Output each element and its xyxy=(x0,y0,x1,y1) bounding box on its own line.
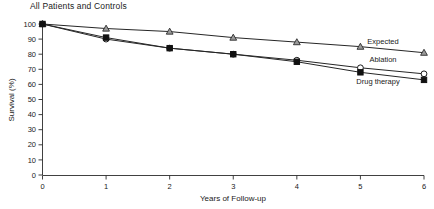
x-tick-label: 1 xyxy=(104,182,108,191)
series-label-drug-therapy: Drug therapy xyxy=(356,77,400,86)
series-ablation xyxy=(40,21,427,77)
series-label-expected: Expected xyxy=(367,37,398,46)
y-tick-label: 40 xyxy=(28,110,36,119)
x-axis-title: Years of Follow-up xyxy=(200,194,267,203)
y-tick-label: 20 xyxy=(28,140,36,149)
data-point-marker xyxy=(167,45,172,50)
x-tick-label: 2 xyxy=(168,182,172,191)
y-tick-label: 30 xyxy=(28,125,36,134)
y-tick-label: 70 xyxy=(28,65,36,74)
y-tick-label: 60 xyxy=(28,80,36,89)
y-tick-label: 0 xyxy=(32,171,36,180)
x-tick-label: 4 xyxy=(295,182,299,191)
data-point-marker xyxy=(421,77,426,82)
y-axis-title: Survival (%) xyxy=(7,78,16,121)
data-point-marker xyxy=(358,70,363,75)
series-layer xyxy=(39,21,427,83)
y-tick-label: 80 xyxy=(28,50,36,59)
series-label-ablation: Ablation xyxy=(369,55,396,64)
data-point-marker xyxy=(103,35,108,40)
survival-chart-figure: All Patients and Controls 01020304050607… xyxy=(0,0,434,209)
x-tick-label: 0 xyxy=(40,182,44,191)
chart-plot-area: 0102030405060708090100 Survival (%) 0123… xyxy=(0,0,434,209)
y-tick-label: 100 xyxy=(23,20,36,29)
y-axis: 0102030405060708090100 Survival (%) xyxy=(7,20,43,180)
data-point-marker xyxy=(294,59,299,64)
y-tick-label: 10 xyxy=(28,156,36,165)
x-tick-label: 5 xyxy=(358,182,362,191)
y-tick-group: 0102030405060708090100 xyxy=(23,20,42,180)
data-point-marker xyxy=(40,21,45,26)
x-tick-label: 3 xyxy=(231,182,235,191)
x-axis: 0123456 Years of Follow-up xyxy=(40,176,426,204)
data-point-marker xyxy=(231,52,236,57)
y-tick-label: 50 xyxy=(28,95,36,104)
x-tick-label: 6 xyxy=(422,182,426,191)
y-tick-label: 90 xyxy=(28,35,36,44)
series-line xyxy=(43,24,425,74)
data-point-marker xyxy=(421,71,427,77)
series-drug-therapy xyxy=(40,21,427,82)
x-tick-group: 0123456 xyxy=(40,176,426,192)
